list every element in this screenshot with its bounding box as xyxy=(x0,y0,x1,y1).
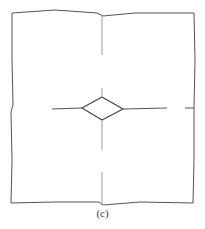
figure-caption: (c) xyxy=(0,207,205,219)
cross-lines xyxy=(52,16,194,204)
central-diamond xyxy=(82,97,123,120)
right-horizontal-line xyxy=(123,108,167,109)
square-outline xyxy=(11,10,195,205)
left-horizontal-line xyxy=(52,108,82,109)
diagram-figure xyxy=(0,0,205,229)
